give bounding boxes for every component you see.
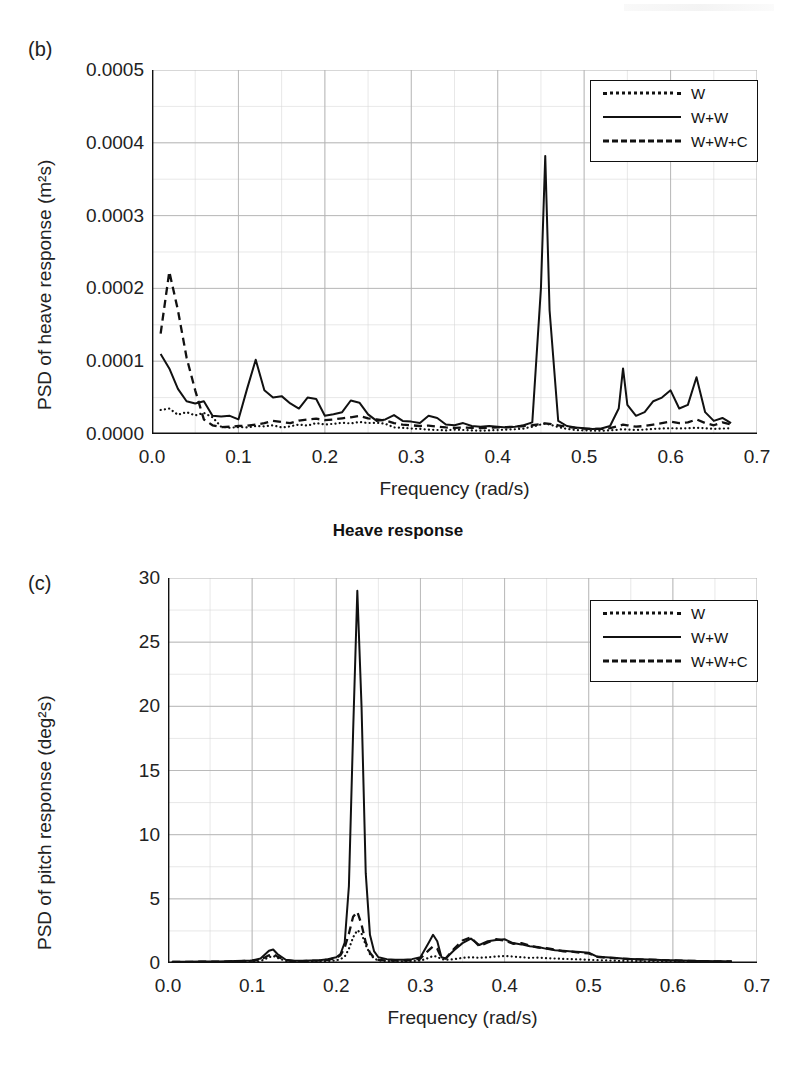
x-tick: 0.2 [312, 446, 338, 468]
x-tick: 0.3 [407, 975, 433, 997]
x-tick: 0.4 [484, 446, 510, 468]
panel-c-label: (c) [28, 572, 51, 595]
panel-b-x-axis-label: Frequency (rad/s) [152, 478, 757, 500]
legend-item-w: W [591, 81, 757, 105]
panel-c-x-axis-label: Frequency (rad/s) [168, 1007, 757, 1029]
legend-line-dashed-icon [603, 134, 681, 148]
legend-item-wwc: W+W+C [591, 129, 757, 153]
y-tick: 25 [70, 631, 160, 653]
y-tick: 0.0001 [40, 350, 144, 372]
x-tick: 0.6 [657, 446, 683, 468]
panel-b-label: (b) [28, 38, 52, 61]
x-tick: 0.7 [744, 446, 770, 468]
y-tick: 0 [70, 952, 160, 974]
x-tick: 0.1 [225, 446, 251, 468]
series-line-w-w-c [161, 272, 731, 429]
y-tick: 30 [70, 567, 160, 589]
x-tick: 0.3 [398, 446, 424, 468]
legend-label: W [691, 85, 705, 102]
legend-label: W+W [691, 629, 728, 646]
series-line-w [172, 930, 732, 962]
legend-line-solid-icon [603, 630, 681, 644]
panel-c-y-axis-label: PSD of pitch response (deg²s) [34, 695, 56, 950]
series-line-w-w [161, 156, 731, 429]
x-tick: 0.5 [575, 975, 601, 997]
legend-item-ww: W+W [591, 105, 757, 129]
y-tick: 15 [70, 760, 160, 782]
x-tick: 0.7 [744, 975, 770, 997]
legend-line-dotted-icon [603, 606, 681, 620]
panel-b: (b) PSD of heave response (m²s) 0.0005 0… [0, 0, 796, 510]
legend-label: W+W+C [691, 133, 748, 150]
figure-psd-response: (b) PSD of heave response (m²s) 0.0005 0… [0, 0, 796, 1075]
y-tick: 0.0004 [40, 132, 144, 154]
x-tick: 0.4 [491, 975, 517, 997]
y-tick: 10 [70, 824, 160, 846]
y-tick: 5 [70, 888, 160, 910]
x-tick: 0.0 [139, 446, 165, 468]
legend-line-dashed-icon [603, 654, 681, 668]
figure-caption-heave: Heave response [0, 521, 796, 541]
x-tick: 0.1 [239, 975, 265, 997]
y-tick: 0.0003 [40, 205, 144, 227]
legend-label: W+W [691, 109, 728, 126]
legend-line-solid-icon [603, 110, 681, 124]
legend-item-ww: W+W [591, 625, 757, 649]
x-tick: 0.6 [660, 975, 686, 997]
legend-label: W [691, 605, 705, 622]
legend-label: W+W+C [691, 653, 748, 670]
y-tick: 0.0002 [40, 277, 144, 299]
panel-b-legend: W W+W W+W+C [590, 80, 758, 162]
legend-item-w: W [591, 601, 757, 625]
y-tick: 0.0000 [40, 423, 144, 445]
x-tick: 0.5 [571, 446, 597, 468]
y-tick: 0.0005 [40, 59, 144, 81]
x-tick: 0.2 [323, 975, 349, 997]
series-line-w-w-c [172, 912, 732, 962]
panel-c: (c) PSD of pitch response (deg²s) 30 25 … [0, 555, 796, 1075]
legend-line-dotted-icon [603, 86, 681, 100]
panel-c-legend: W W+W W+W+C [590, 600, 758, 682]
x-tick: 0.0 [155, 975, 181, 997]
legend-item-wwc: W+W+C [591, 649, 757, 673]
y-tick: 20 [70, 695, 160, 717]
